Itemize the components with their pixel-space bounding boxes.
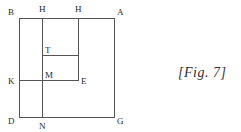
label-H-right: H [75,4,82,14]
label-N: N [39,121,46,131]
label-T: T [45,45,51,55]
label-H-left: H [39,4,46,14]
label-M: M [45,70,53,80]
label-B: B [8,7,14,17]
label-K: K [8,76,15,86]
label-G: G [117,116,124,126]
outer-square-BAGD [20,19,115,118]
figure-caption: [Fig. 7] [178,65,226,81]
label-A: A [117,7,124,17]
label-D: D [8,116,15,126]
label-E: E [81,76,87,86]
